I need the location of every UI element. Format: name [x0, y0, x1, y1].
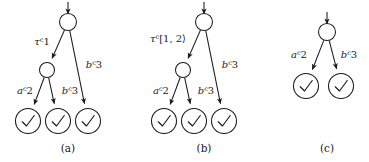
state-node-circle [176, 63, 191, 78]
edge-arrow [188, 30, 200, 58]
node-leaf-3 [76, 109, 101, 134]
state-node-circle [60, 14, 77, 31]
edge-label-value: 3 [72, 85, 78, 96]
edge-label-inner-to-leaf-2: bc3 [198, 85, 214, 96]
derivation-tree-figure: τc1bc3ac2bc3(a)τc[1, 2⟩bc3ac2bc3(b)ac2bc… [0, 0, 369, 162]
edge-label-root-to-leaf-1: ac2 [291, 49, 307, 60]
state-node-circle [196, 14, 213, 31]
edge-label-inner-to-leaf-1: ac2 [153, 85, 169, 96]
edge-inner-to-leaf-2: bc3 [49, 78, 79, 104]
edge-root-to-leaf-1: ac2 [291, 40, 324, 69]
edge-arrow [329, 41, 336, 69]
node-root [196, 14, 213, 31]
accept-node-circle [182, 109, 207, 134]
node-leaf-1 [294, 74, 319, 99]
accept-node-circle [16, 109, 41, 134]
edge-label-root-to-leaf-3: bc3 [222, 59, 238, 70]
node-leaf-3 [212, 109, 237, 134]
edge-label-value: 3 [351, 49, 357, 60]
edge-root-to-inner: τc[1, 2⟩ [150, 30, 200, 58]
panel-caption-b: (b) [197, 142, 212, 154]
edge-arrow [34, 77, 44, 104]
edge-label-root-to-inner: τc1 [34, 36, 50, 47]
accept-node-circle [212, 109, 237, 134]
panel-caption-c: (c) [320, 142, 334, 154]
edge-label-inner-to-leaf-2: bc3 [62, 85, 78, 96]
edge-inner-to-leaf-2: bc3 [185, 78, 215, 104]
node-root [319, 24, 336, 41]
node-leaf-1 [16, 109, 41, 134]
edge-arrow [49, 78, 55, 104]
edge-arrow [52, 30, 64, 58]
edge-label-root-to-inner: τc[1, 2⟩ [150, 33, 186, 44]
edge-label-root-to-leaf-2: bc3 [341, 49, 357, 60]
state-node-circle [40, 63, 55, 78]
accept-node-circle [294, 74, 319, 99]
node-inner [176, 63, 191, 78]
node-root [60, 14, 77, 31]
edge-label-value: 3 [96, 59, 102, 70]
node-leaf-2 [182, 109, 207, 134]
edge-arrow [170, 77, 180, 104]
edge-label-inner-to-leaf-1: ac2 [17, 85, 33, 96]
edge-label-root-to-leaf-3: bc3 [86, 59, 102, 70]
tree-panel-c: ac2bc3(c) [291, 12, 357, 154]
edge-label-value: 2 [301, 49, 307, 60]
edge-label-value: [1, 2⟩ [159, 33, 186, 44]
tree-panel-a: τc1bc3ac2bc3(a) [16, 2, 103, 154]
tree-panel-b: τc[1, 2⟩bc3ac2bc3(b) [150, 2, 238, 154]
node-inner [40, 63, 55, 78]
edge-root-to-leaf-2: bc3 [329, 41, 357, 69]
node-leaf-2 [46, 109, 71, 134]
edge-arrow [185, 78, 191, 104]
edge-label-value: 1 [43, 36, 49, 47]
accept-node-circle [152, 109, 177, 134]
edge-arrow [312, 40, 323, 69]
panel-caption-a: (a) [61, 142, 75, 154]
state-node-circle [319, 24, 336, 41]
edge-label-value: 3 [232, 59, 238, 70]
node-leaf-1 [152, 109, 177, 134]
accept-node-circle [46, 109, 71, 134]
edge-label-value: 2 [163, 85, 169, 96]
accept-node-circle [76, 109, 101, 134]
edge-inner-to-leaf-1: ac2 [17, 77, 44, 104]
edge-root-to-inner: τc1 [34, 30, 64, 58]
edge-label-value: 3 [208, 85, 214, 96]
edge-inner-to-leaf-1: ac2 [153, 77, 180, 104]
node-leaf-2 [329, 74, 354, 99]
edge-label-value: 2 [27, 85, 33, 96]
accept-node-circle [329, 74, 354, 99]
